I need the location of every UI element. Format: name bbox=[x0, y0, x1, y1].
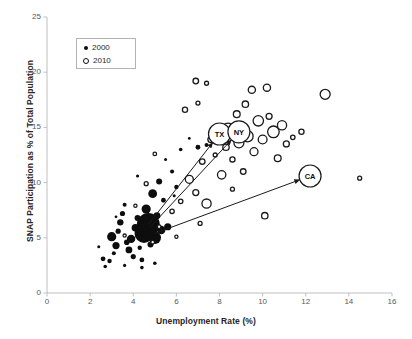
data-point-2000 bbox=[164, 158, 167, 161]
data-point-2010 bbox=[198, 221, 202, 225]
y-axis-title: SNAP Participation as % of Total Populat… bbox=[25, 35, 35, 267]
filled-circle-icon bbox=[84, 46, 88, 50]
data-point-2010 bbox=[151, 240, 155, 244]
data-point-2010 bbox=[291, 135, 295, 139]
data-point-2000 bbox=[156, 179, 162, 185]
data-point-2010 bbox=[123, 234, 126, 237]
data-point-2000 bbox=[173, 194, 176, 197]
callout-circle-CA bbox=[299, 165, 321, 187]
data-point-2010 bbox=[230, 187, 234, 191]
data-point-2010 bbox=[170, 209, 174, 213]
data-point-2010 bbox=[358, 176, 362, 180]
data-point-2010 bbox=[202, 199, 211, 208]
data-point-2010 bbox=[250, 148, 258, 156]
x-axis-title: Unemployment Rate (%) bbox=[0, 316, 412, 326]
data-point-2000 bbox=[101, 256, 106, 261]
data-point-2010 bbox=[217, 171, 225, 179]
data-point-2000 bbox=[138, 246, 142, 250]
data-point-2010 bbox=[253, 116, 263, 126]
data-point-2010 bbox=[144, 182, 148, 186]
data-point-2000 bbox=[131, 254, 136, 259]
data-point-2000 bbox=[196, 145, 201, 150]
plot-canvas bbox=[0, 0, 412, 339]
data-point-2010 bbox=[283, 141, 289, 147]
data-point-2010 bbox=[262, 213, 268, 219]
legend-label-2000: 2000 bbox=[92, 43, 110, 52]
data-point-2000 bbox=[117, 219, 123, 225]
data-point-2000 bbox=[127, 235, 135, 243]
callout-circle-NY bbox=[228, 121, 250, 143]
data-point-2010 bbox=[196, 101, 200, 105]
data-point-2000 bbox=[179, 148, 183, 152]
data-point-2000 bbox=[115, 215, 118, 218]
data-point-2010 bbox=[230, 157, 235, 162]
legend-label-2010: 2010 bbox=[93, 56, 111, 65]
x-tick-label: 8 bbox=[207, 297, 233, 306]
data-point-2000 bbox=[136, 174, 139, 177]
data-point-2010 bbox=[263, 84, 270, 91]
data-point-2010 bbox=[233, 111, 240, 118]
x-tick-label: 16 bbox=[379, 297, 405, 306]
x-tick-label: 14 bbox=[336, 297, 362, 306]
data-point-2010 bbox=[182, 107, 187, 112]
data-point-2000 bbox=[116, 229, 121, 234]
data-point-2000 bbox=[205, 143, 209, 147]
y-tick-label: 0 bbox=[21, 288, 41, 297]
data-point-2010 bbox=[199, 159, 205, 165]
data-point-2000 bbox=[140, 266, 144, 270]
callout-circle-TX bbox=[209, 123, 231, 145]
legend-item-2000: 2000 bbox=[82, 41, 110, 54]
data-point-2010 bbox=[193, 78, 199, 84]
data-point-2010 bbox=[299, 129, 304, 134]
legend: 2000 2010 bbox=[76, 38, 136, 69]
data-point-2000 bbox=[188, 137, 191, 140]
x-axis-ticks bbox=[47, 293, 392, 297]
data-point-2010 bbox=[134, 204, 137, 207]
data-point-2010 bbox=[277, 121, 286, 130]
data-point-2000 bbox=[112, 251, 116, 255]
data-point-2010 bbox=[175, 235, 178, 238]
x-tick-label: 10 bbox=[250, 297, 276, 306]
data-point-2000 bbox=[97, 245, 100, 248]
legend-item-2010: 2010 bbox=[82, 54, 111, 67]
data-point-2010 bbox=[320, 89, 330, 99]
data-point-2000 bbox=[112, 242, 119, 249]
data-point-2010 bbox=[258, 135, 267, 144]
data-point-2010 bbox=[248, 86, 255, 93]
data-point-2010 bbox=[242, 101, 248, 107]
series-2000-markers bbox=[97, 137, 217, 269]
y-axis-ticks bbox=[44, 17, 48, 293]
data-point-2010 bbox=[153, 152, 157, 156]
data-point-2000 bbox=[139, 257, 144, 262]
data-point-2000 bbox=[142, 205, 151, 214]
data-point-2010 bbox=[240, 169, 246, 175]
data-point-2010 bbox=[274, 155, 281, 162]
data-point-2000 bbox=[170, 170, 174, 174]
data-point-2000 bbox=[123, 264, 126, 267]
snap-participation-scatter-chart: 02468101214160510152025 2000 2010 Unempl… bbox=[0, 0, 412, 339]
series-2010-markers bbox=[123, 78, 362, 244]
x-tick-label: 4 bbox=[120, 297, 146, 306]
data-point-2000 bbox=[120, 211, 125, 216]
annotation-arrows bbox=[148, 140, 299, 234]
data-point-2010 bbox=[205, 81, 209, 85]
y-tick-label: 25 bbox=[21, 12, 41, 21]
data-point-2010 bbox=[178, 199, 182, 203]
x-tick-label: 6 bbox=[163, 297, 189, 306]
x-tick-label: 2 bbox=[77, 297, 103, 306]
data-point-2000 bbox=[107, 232, 116, 241]
data-point-2000 bbox=[123, 203, 127, 207]
annotation-arrow-NY bbox=[151, 140, 232, 227]
data-point-2010 bbox=[266, 113, 272, 119]
data-point-2000 bbox=[103, 265, 107, 269]
data-point-2000 bbox=[107, 259, 111, 263]
data-point-2000 bbox=[161, 198, 166, 203]
data-point-2010 bbox=[193, 190, 199, 196]
data-point-2000 bbox=[153, 261, 157, 265]
open-circle-icon bbox=[83, 58, 89, 64]
data-point-2010 bbox=[157, 225, 161, 229]
data-point-2000 bbox=[126, 247, 133, 254]
x-tick-label: 12 bbox=[293, 297, 319, 306]
x-tick-label: 0 bbox=[34, 297, 60, 306]
data-point-2000 bbox=[148, 189, 157, 198]
